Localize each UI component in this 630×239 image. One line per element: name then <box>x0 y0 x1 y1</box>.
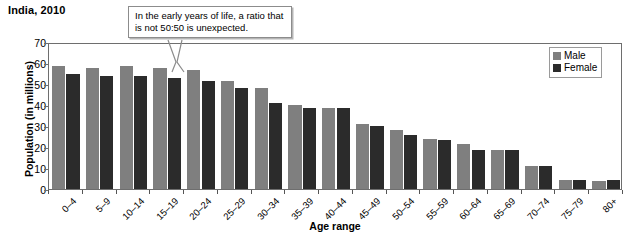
bar-female-55–59 <box>438 140 451 189</box>
bar-female-5–9 <box>100 76 113 189</box>
y-axis-ticks: 010203040506070 <box>0 0 46 239</box>
bar-female-45–49 <box>370 126 383 189</box>
bar-male-25–29 <box>221 81 234 189</box>
legend-item-male: Male <box>553 50 597 62</box>
bar-female-10–14 <box>134 76 147 189</box>
bar-female-25–29 <box>235 88 248 189</box>
x-axis-title: Age range <box>48 220 622 232</box>
bar-female-50–54 <box>404 135 417 189</box>
y-tick-label: 40 <box>24 101 46 111</box>
bar-female-20–24 <box>202 81 215 189</box>
chart-legend: Male Female <box>549 47 602 78</box>
y-tick-label: 60 <box>24 59 46 69</box>
bar-female-15–19 <box>168 78 181 189</box>
y-tick-label: 50 <box>24 80 46 90</box>
population-bar-chart: India, 2010 Population (in millions) 010… <box>0 0 630 239</box>
y-tick-label: 10 <box>24 164 46 174</box>
bar-female-65–69 <box>505 150 518 189</box>
legend-swatch-female-icon <box>553 64 561 72</box>
bar-female-30–34 <box>269 103 282 189</box>
bar-male-5–9 <box>86 68 99 189</box>
callout-annotation: In the early years of life, a ratio that… <box>128 6 292 38</box>
y-tick-label: 0 <box>24 185 46 195</box>
plot-area <box>48 43 622 190</box>
bar-male-0–4 <box>52 66 65 189</box>
y-tick-label: 20 <box>24 143 46 153</box>
bar-male-15–19 <box>153 68 166 189</box>
legend-item-female: Female <box>553 62 597 74</box>
bar-male-10–14 <box>120 66 133 189</box>
bar-female-35–39 <box>303 108 316 189</box>
bar-male-20–24 <box>187 70 200 189</box>
legend-label-female: Female <box>564 62 597 74</box>
y-tick-label: 30 <box>24 122 46 132</box>
bar-female-70–74 <box>539 166 552 189</box>
legend-label-male: Male <box>564 50 586 62</box>
bar-female-0–4 <box>66 74 79 190</box>
legend-swatch-male-icon <box>553 52 561 60</box>
bar-female-60–64 <box>472 150 485 189</box>
bar-female-40–44 <box>337 108 350 189</box>
y-tick-label: 70 <box>24 38 46 48</box>
bars-layer <box>49 44 621 189</box>
